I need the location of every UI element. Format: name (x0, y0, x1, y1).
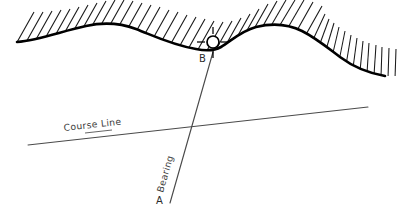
diagram-canvas: Course Line Bearing A B (0, 0, 402, 219)
land-hatching (16, 0, 396, 79)
course-line-label: Course Line (63, 116, 122, 133)
navigation-bearing-diagram: Course Line Bearing A B (0, 0, 402, 219)
point-b-label: B (199, 53, 206, 64)
landmark-circle-icon (207, 36, 219, 48)
coastline-shoreline (17, 24, 385, 76)
point-a-label: A (156, 195, 163, 206)
course-line-label-group: Course Line (63, 116, 122, 133)
bearing-label-group: Bearing (154, 154, 175, 194)
bearing-line (170, 52, 213, 203)
bearing-label: Bearing (154, 154, 175, 194)
